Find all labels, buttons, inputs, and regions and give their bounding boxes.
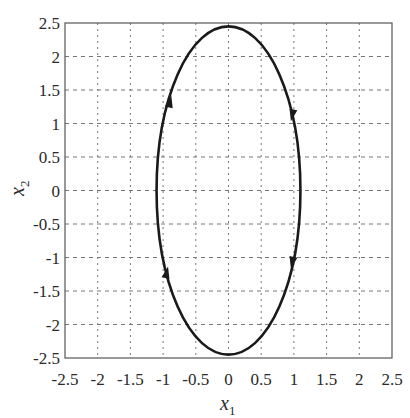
x-tick-label: -0.5 [182, 370, 209, 389]
y-tick-label: -2.5 [33, 349, 60, 368]
y-tick-label: 0.5 [39, 148, 60, 167]
x-tick-label: -2.5 [52, 370, 79, 389]
x-tick-label: 1.5 [316, 370, 337, 389]
y-axis-ticks: 2.521.510.50-0.5-1-1.5-2-2.5 [33, 14, 60, 368]
y-axis-label: x2 [6, 181, 32, 197]
grid-lines [65, 23, 392, 358]
arrow-down-icon [287, 109, 297, 122]
y-tick-label: -1.5 [33, 282, 60, 301]
x-tick-label: 2.5 [381, 370, 402, 389]
x-axis-ticks: -2.5-2-1.5-1-0.500.511.522.5 [52, 370, 403, 389]
x-axis-label: x1 [219, 392, 235, 418]
y-tick-label: -0.5 [33, 215, 60, 234]
y-tick-label: -2 [46, 316, 60, 335]
x-tick-label: 1 [290, 370, 299, 389]
x-tick-label: 0 [224, 370, 233, 389]
x-tick-label: -1 [156, 370, 170, 389]
x-tick-label: -2 [91, 370, 105, 389]
y-tick-label: 2 [52, 48, 61, 67]
x-tick-label: 0.5 [251, 370, 272, 389]
y-tick-label: 1.5 [39, 81, 60, 100]
y-tick-label: -1 [46, 249, 60, 268]
y-tick-label: 1 [52, 115, 61, 134]
x-tick-label: 2 [355, 370, 364, 389]
y-tick-label: 2.5 [39, 14, 60, 33]
y-tick-label: 0 [52, 182, 61, 201]
arrow-up-icon [162, 266, 172, 279]
direction-arrows [162, 95, 298, 279]
phase-portrait-chart: -2.5-2-1.5-1-0.500.511.522.5 2.521.510.5… [0, 0, 410, 418]
x-tick-label: -1.5 [117, 370, 144, 389]
